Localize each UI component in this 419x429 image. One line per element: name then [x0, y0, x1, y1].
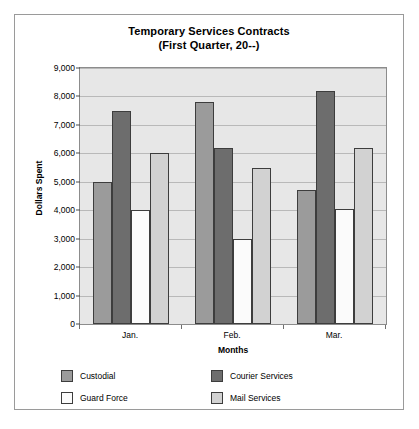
chart-title: Temporary Services Contracts: [15, 24, 403, 38]
chart-legend: CustodialCourier ServicesGuard ForceMail…: [61, 365, 361, 409]
plot-area: 01,0002,0003,0004,0005,0006,0007,0008,00…: [79, 67, 387, 325]
x-axis-label: Months: [79, 345, 387, 355]
y-tick-label: 1,000: [54, 291, 75, 301]
bar: [150, 153, 169, 324]
bar: [354, 148, 373, 324]
bar: [131, 210, 150, 324]
legend-item: Mail Services: [211, 392, 361, 404]
x-tick-mark: [181, 325, 182, 329]
bar-group: [297, 68, 373, 324]
bar-groups: [80, 68, 386, 324]
y-tick-label: 9,000: [54, 63, 75, 73]
chart-title-block: Temporary Services Contracts (First Quar…: [15, 24, 403, 52]
legend-label: Guard Force: [80, 393, 128, 403]
x-tick-label: Feb.: [223, 330, 240, 340]
x-tick-mark: [385, 325, 386, 329]
x-axis-ticks: Jan.Feb.Mar.: [79, 325, 387, 345]
y-tick-label: 2,000: [54, 262, 75, 272]
legend-item: Courier Services: [211, 370, 361, 382]
bar: [297, 190, 316, 324]
bar: [233, 239, 252, 324]
x-tick-label: Jan.: [122, 330, 138, 340]
y-axis-label: Dollars Spent: [34, 148, 44, 228]
y-tick-label: 5,000: [54, 177, 75, 187]
bar-group: [93, 68, 169, 324]
legend-item: Custodial: [61, 370, 211, 382]
x-tick-mark: [283, 325, 284, 329]
bar: [195, 102, 214, 324]
legend-swatch: [61, 392, 73, 404]
y-tick-label: 8,000: [54, 91, 75, 101]
y-tick-label: 3,000: [54, 234, 75, 244]
y-tick-label: 6,000: [54, 148, 75, 158]
legend-swatch: [61, 370, 73, 382]
x-tick-mark: [79, 325, 80, 329]
bar: [252, 168, 271, 324]
legend-label: Courier Services: [230, 371, 293, 381]
y-tick-label: 7,000: [54, 120, 75, 130]
legend-item: Guard Force: [61, 392, 211, 404]
legend-label: Mail Services: [230, 393, 281, 403]
legend-label: Custodial: [80, 371, 115, 381]
chart-subtitle: (First Quarter, 20--): [15, 38, 403, 52]
bar: [112, 111, 131, 324]
chart-figure: Temporary Services Contracts (First Quar…: [14, 14, 404, 410]
legend-swatch: [211, 392, 223, 404]
y-tick-label: 4,000: [54, 205, 75, 215]
x-tick-label: Mar.: [326, 330, 343, 340]
bar: [93, 182, 112, 324]
bar: [316, 91, 335, 324]
bar: [335, 209, 354, 324]
y-tick-label: 0: [70, 319, 75, 329]
legend-swatch: [211, 370, 223, 382]
bar: [214, 148, 233, 324]
bar-group: [195, 68, 271, 324]
